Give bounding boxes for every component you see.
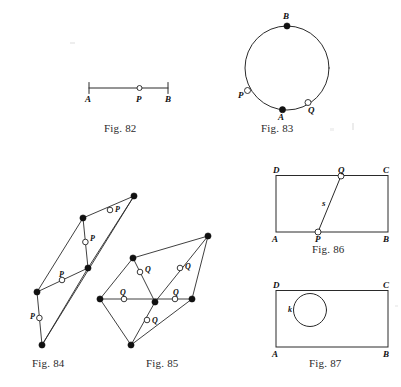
fig82-label-B: B [165,94,171,104]
fig87-label-C: C [383,280,389,290]
fig84-label-P-4: P [30,312,35,321]
fig82-label-A: A [85,94,91,104]
fig84-point-P-4 [37,315,43,321]
fig-82-graphic [89,83,168,94]
caption-fig-86: Fig. 86 [312,243,345,255]
fig82-label-P: P [136,94,142,104]
fig83-label-A: A [278,112,284,122]
fig-84-graphic [34,193,137,348]
fig84-label-P-1: P [115,205,120,214]
fig85-point-Q-1 [137,269,143,275]
fig85-point-Q-2 [177,265,183,271]
fig-85-graphic [97,233,211,348]
fig86-label-C: C [383,165,389,175]
fig-83-graphic [245,23,330,113]
caption-fig-85: Fig. 85 [146,357,179,369]
fig85-label-Q-3: Q [120,288,126,297]
fig87-label-D: D [273,280,280,290]
fig85-label-Q-2: Q [185,262,191,271]
fig86-label-B: B [383,234,389,244]
fig87-label-k: k [288,305,292,314]
scan-speck [70,42,75,44]
fig86-label-D: D [273,165,280,175]
caption-fig-82: Fig. 82 [104,122,137,134]
fig87-label-A: A [272,349,278,359]
fig86-label-Q: Q [338,165,345,175]
fig87-label-B: B [383,349,389,359]
fig-86-graphic [276,173,388,235]
fig87-circle-k [294,294,327,327]
caption-fig-84: Fig. 84 [32,357,65,369]
fig85-point-Q-3 [121,296,127,302]
fig83-point-P [245,88,251,94]
fig83-label-P: P [238,90,244,100]
fig85-point-Q-5 [144,317,150,323]
fig83-label-Q: Q [308,105,315,115]
figures-canvas: .ln{stroke:#2a2a2a;stroke-width:0.9;fill… [0,0,401,387]
fig86-label-s: s [322,198,326,208]
fig85-point-Q-4 [172,296,178,302]
fig84-label-P-3: P [59,270,64,279]
fig86-label-A: A [272,234,278,244]
fig85-label-Q-5: Q [152,316,158,325]
scan-speck [395,305,398,307]
caption-fig-83: Fig. 83 [261,122,294,134]
fig83-label-B: B [283,11,289,21]
scan-speck [330,128,334,131]
fig84-point-P-2 [83,239,89,245]
caption-fig-87: Fig. 87 [309,357,342,369]
fig84-point-P-1 [107,207,113,213]
fig85-label-Q-1: Q [145,265,151,274]
fig-87-graphic [276,291,388,348]
fig85-label-Q-4: Q [173,288,179,297]
fig83-point-B [284,23,290,29]
scan-speck [352,123,354,130]
fig84-label-P-2: P [90,234,95,243]
figure-sheet: .ln{stroke:#2a2a2a;stroke-width:0.9;fill… [0,0,401,387]
fig82-point-P [137,86,142,91]
